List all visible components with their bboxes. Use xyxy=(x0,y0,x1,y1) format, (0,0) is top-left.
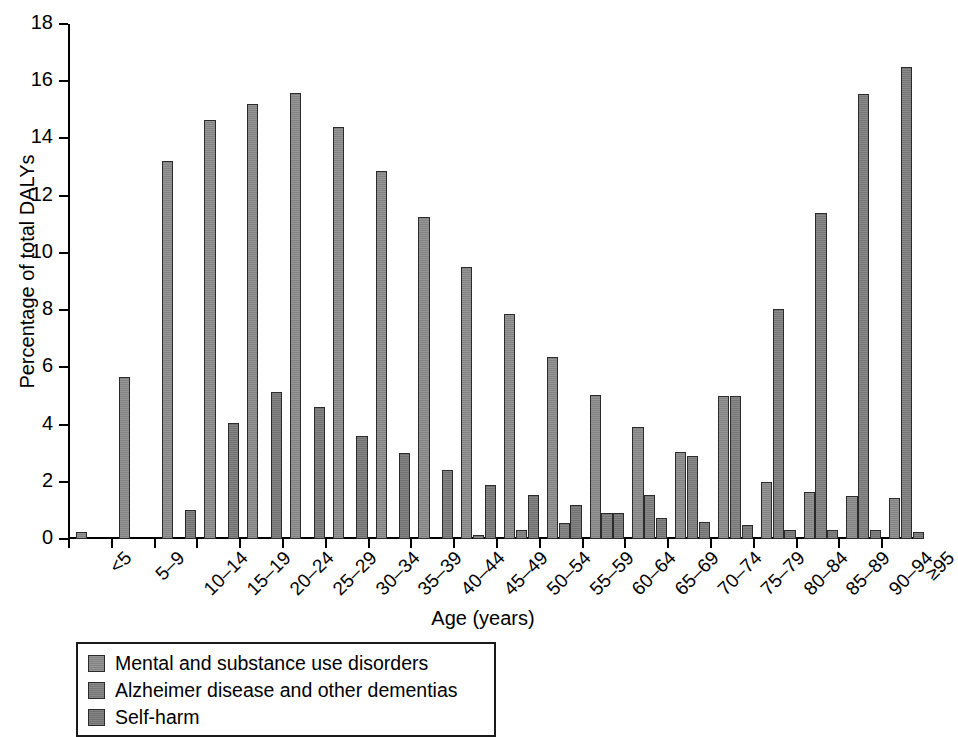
x-axis-title-text: Age (years) xyxy=(431,607,534,629)
y-tick-label: 16 xyxy=(31,68,53,91)
bar xyxy=(656,518,667,539)
bar xyxy=(314,407,325,539)
bar xyxy=(162,161,173,539)
legend-swatch-mental xyxy=(88,655,105,672)
y-tick-label: 8 xyxy=(42,297,53,320)
x-tick-label: 50–54 xyxy=(542,547,595,600)
x-tick-label: <5 xyxy=(105,547,136,578)
bar xyxy=(675,452,686,539)
y-tick: 18 xyxy=(59,23,68,25)
x-tick-label: 75–79 xyxy=(756,547,809,600)
chart-legend: Mental and substance use disorders Alzhe… xyxy=(76,642,496,737)
y-tick: 16 xyxy=(59,80,68,82)
y-tick-label: 12 xyxy=(31,183,53,206)
y-tick: 12 xyxy=(59,195,68,197)
x-axis-title: Age (years) xyxy=(0,607,928,630)
bar xyxy=(699,522,710,539)
bar xyxy=(504,314,515,539)
legend-label-alzheimer: Alzheimer disease and other dementias xyxy=(115,679,458,702)
bar xyxy=(632,427,643,539)
bar xyxy=(827,530,838,539)
y-tick-label: 4 xyxy=(42,412,53,435)
y-tick: 10 xyxy=(59,252,68,254)
bar xyxy=(485,485,496,539)
bar xyxy=(376,171,387,539)
x-tick-label: 15–19 xyxy=(243,547,296,600)
x-tick-label: 35–39 xyxy=(414,547,467,600)
bar xyxy=(590,395,601,539)
bar xyxy=(559,523,570,539)
y-tick-label: 6 xyxy=(42,354,53,377)
x-tick-label: 10–14 xyxy=(200,547,253,600)
bar xyxy=(761,482,772,539)
bar xyxy=(815,213,826,539)
x-tick-label: 65–69 xyxy=(671,547,724,600)
x-tick-label: 5–9 xyxy=(151,547,189,585)
bar xyxy=(356,436,367,539)
bar xyxy=(784,530,795,539)
legend-swatch-alzheimer xyxy=(88,682,105,699)
bar xyxy=(473,535,484,539)
legend-item: Self-harm xyxy=(88,704,486,731)
legend-swatch-self-harm xyxy=(88,709,105,726)
bar xyxy=(76,532,87,539)
bar xyxy=(901,67,912,539)
y-tick-label: 0 xyxy=(42,526,53,549)
y-tick-label: 18 xyxy=(31,11,53,34)
x-tick-label: 70–74 xyxy=(713,547,766,600)
bar xyxy=(570,505,581,539)
y-tick: 0 xyxy=(59,538,68,540)
bar xyxy=(418,217,429,539)
y-tick: 14 xyxy=(59,137,68,139)
bar xyxy=(461,267,472,539)
legend-item: Alzheimer disease and other dementias xyxy=(88,677,486,704)
y-tick-label: 2 xyxy=(42,469,53,492)
bar xyxy=(333,127,344,539)
bar xyxy=(516,530,527,539)
bar xyxy=(528,495,539,539)
bar xyxy=(290,93,301,539)
bar xyxy=(870,530,881,539)
bar xyxy=(742,525,753,539)
x-tick-label: 55–59 xyxy=(585,547,638,600)
x-tick-label: 40–44 xyxy=(457,547,510,600)
bar xyxy=(730,396,741,539)
x-tick-label: 85–89 xyxy=(842,547,895,600)
bar xyxy=(271,392,282,539)
bar xyxy=(613,513,624,539)
y-tick-label: 10 xyxy=(31,240,53,263)
plot-area: 024681012141618 xyxy=(68,24,924,539)
x-axis-tick-labels: <55–910–1415–1920–2425–2930–3435–3940–44… xyxy=(68,545,924,607)
bar xyxy=(846,496,857,539)
y-tick: 4 xyxy=(59,424,68,426)
bar xyxy=(644,495,655,539)
bar xyxy=(442,470,453,539)
bar xyxy=(913,532,924,539)
x-tick-label: 20–24 xyxy=(285,547,338,600)
legend-label-self-harm: Self-harm xyxy=(115,706,200,729)
bar xyxy=(185,510,196,539)
bar xyxy=(228,423,239,539)
x-tick-label: 30–34 xyxy=(371,547,424,600)
y-tick: 2 xyxy=(59,481,68,483)
y-tick-label: 14 xyxy=(31,125,53,148)
y-tick: 6 xyxy=(59,366,68,368)
bar xyxy=(889,498,900,539)
bar xyxy=(247,104,258,539)
bar-group-container xyxy=(68,24,924,539)
x-tick-label: 45–49 xyxy=(499,547,552,600)
x-tick-label: 80–84 xyxy=(799,547,852,600)
legend-item: Mental and substance use disorders xyxy=(88,650,486,677)
bar xyxy=(547,357,558,539)
bar xyxy=(687,456,698,539)
bar xyxy=(773,309,784,539)
x-tick-label: 25–29 xyxy=(328,547,381,600)
bar xyxy=(119,377,130,539)
bar xyxy=(399,453,410,539)
bar xyxy=(718,396,729,539)
legend-label-mental: Mental and substance use disorders xyxy=(115,652,428,675)
bar xyxy=(204,120,215,539)
y-tick: 8 xyxy=(59,309,68,311)
bar xyxy=(601,513,612,539)
